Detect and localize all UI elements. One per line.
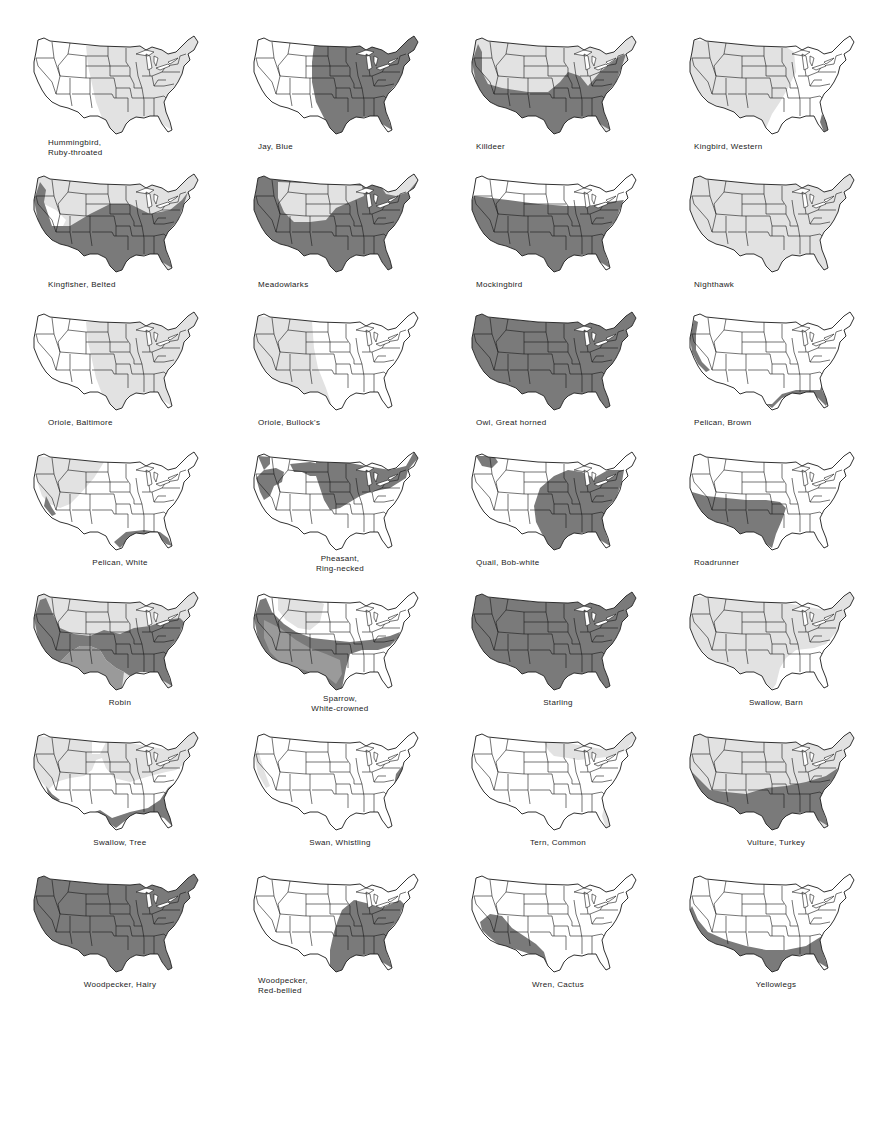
range-region — [34, 874, 198, 972]
species-label: Roadrunner — [694, 558, 739, 568]
species-label-line: Yellowlegs — [736, 980, 816, 990]
species-label: Vulture, Turkey — [736, 838, 816, 848]
range-map-tern-common: Tern, Common — [448, 720, 668, 860]
range-region — [34, 592, 198, 690]
species-label-line: Oriole, Bullock's — [258, 418, 320, 428]
range-map-nighthawk: Nighthawk — [666, 162, 873, 302]
range-map-pelican-brown: Pelican, Brown — [666, 300, 873, 440]
species-label-line: Oriole, Baltimore — [48, 418, 113, 428]
species-label-line: Pelican, Brown — [694, 418, 752, 428]
us-map-icon — [10, 162, 230, 302]
range-region — [472, 592, 636, 690]
species-label: Jay, Blue — [258, 142, 293, 152]
range-map-swan-whistling: Swan, Whistling — [230, 720, 450, 860]
species-label: Kingfisher, Belted — [48, 280, 116, 290]
species-label-line: Pelican, White — [80, 558, 160, 568]
species-label: Killdeer — [476, 142, 505, 152]
species-label-line: Roadrunner — [694, 558, 739, 568]
species-label: Wren, Cactus — [518, 980, 598, 990]
range-map-robin: Robin — [10, 580, 230, 720]
species-label: Mockingbird — [476, 280, 522, 290]
species-label: Tern, Common — [518, 838, 598, 848]
species-label: Pheasant,Ring-necked — [300, 554, 380, 574]
species-label-line: Killdeer — [476, 142, 505, 152]
species-label: Starling — [518, 698, 598, 708]
species-label-line: Wren, Cactus — [518, 980, 598, 990]
species-label-line: Swallow, Barn — [736, 698, 816, 708]
species-label-line: Ring-necked — [300, 564, 380, 574]
species-label-line: Sparrow, — [300, 694, 380, 704]
species-label-line: Meadowlarks — [258, 280, 308, 290]
range-map-owl-great-horned: Owl, Great horned — [448, 300, 668, 440]
range-region — [690, 174, 854, 272]
species-label: Yellowlegs — [736, 980, 816, 990]
range-map-oriole-baltimore: Oriole, Baltimore — [10, 300, 230, 440]
range-map-roadrunner: Roadrunner — [666, 440, 873, 580]
bird-range-map-grid: Hummingbird,Ruby-throatedJay, BlueKillde… — [0, 0, 873, 1122]
species-label-line: Kingbird, Western — [694, 142, 763, 152]
species-label-line: Nighthawk — [694, 280, 734, 290]
range-region — [254, 174, 418, 272]
range-map-quail-bob-white: Quail, Bob-white — [448, 440, 668, 580]
species-label-line: Swallow, Tree — [80, 838, 160, 848]
species-label-line: Owl, Great horned — [476, 418, 546, 428]
species-label-line: Pheasant, — [300, 554, 380, 564]
us-map-icon — [10, 300, 230, 440]
species-label-line: Robin — [80, 698, 160, 708]
species-label-line: Jay, Blue — [258, 142, 293, 152]
range-map-kingbird-western: Kingbird, Western — [666, 24, 873, 164]
range-region — [472, 312, 636, 410]
species-label-line: Quail, Bob-white — [476, 558, 540, 568]
species-label-line: Red-bellied — [258, 986, 308, 996]
range-map-swallow-tree: Swallow, Tree — [10, 720, 230, 860]
species-label: Swallow, Tree — [80, 838, 160, 848]
species-label: Hummingbird,Ruby-throated — [48, 138, 103, 158]
range-region — [86, 36, 198, 134]
range-map-hummingbird-ruby-throated: Hummingbird,Ruby-throated — [10, 24, 230, 164]
range-region — [86, 312, 198, 410]
species-label: Meadowlarks — [258, 280, 308, 290]
species-label: Sparrow,White-crowned — [300, 694, 380, 714]
species-label-line: White-crowned — [300, 704, 380, 714]
range-map-sparrow-white-crowned: Sparrow,White-crowned — [230, 580, 450, 720]
range-map-kingfisher-belted: Kingfisher, Belted — [10, 162, 230, 302]
species-label-line: Woodpecker, — [258, 976, 308, 986]
species-label-line: Kingfisher, Belted — [48, 280, 116, 290]
species-label: Owl, Great horned — [476, 418, 546, 428]
species-label: Woodpecker, Hairy — [80, 980, 160, 990]
species-label: Quail, Bob-white — [476, 558, 540, 568]
species-label: Kingbird, Western — [694, 142, 763, 152]
species-label-line: Woodpecker, Hairy — [80, 980, 160, 990]
species-label: Pelican, White — [80, 558, 160, 568]
range-map-wren-cactus: Wren, Cactus — [448, 862, 668, 1002]
species-label-line: Ruby-throated — [48, 148, 103, 158]
range-map-oriole-bullock-s: Oriole, Bullock's — [230, 300, 450, 440]
species-label-line: Swan, Whistling — [300, 838, 380, 848]
species-label-line: Starling — [518, 698, 598, 708]
range-map-killdeer: Killdeer — [448, 24, 668, 164]
species-label-line: Tern, Common — [518, 838, 598, 848]
species-label: Nighthawk — [694, 280, 734, 290]
range-region — [472, 36, 636, 134]
species-label-line: Vulture, Turkey — [736, 838, 816, 848]
range-map-swallow-barn: Swallow, Barn — [666, 580, 873, 720]
species-label: Oriole, Bullock's — [258, 418, 320, 428]
species-label: Oriole, Baltimore — [48, 418, 113, 428]
species-label: Pelican, Brown — [694, 418, 752, 428]
range-map-mockingbird: Mockingbird — [448, 162, 668, 302]
species-label: Robin — [80, 698, 160, 708]
species-label-line: Hummingbird, — [48, 138, 103, 148]
us-map-icon — [10, 24, 230, 164]
range-map-pelican-white: Pelican, White — [10, 440, 230, 580]
range-map-vulture-turkey: Vulture, Turkey — [666, 720, 873, 860]
range-map-jay-blue: Jay, Blue — [230, 24, 450, 164]
species-label: Woodpecker,Red-bellied — [258, 976, 308, 996]
range-map-meadowlarks: Meadowlarks — [230, 162, 450, 302]
species-label-line: Mockingbird — [476, 280, 522, 290]
range-map-starling: Starling — [448, 580, 668, 720]
range-map-pheasant-ring-necked: Pheasant,Ring-necked — [230, 440, 450, 580]
species-label: Swallow, Barn — [736, 698, 816, 708]
range-map-yellowlegs: Yellowlegs — [666, 862, 873, 1002]
species-label: Swan, Whistling — [300, 838, 380, 848]
range-map-woodpecker-hairy: Woodpecker, Hairy — [10, 862, 230, 1002]
